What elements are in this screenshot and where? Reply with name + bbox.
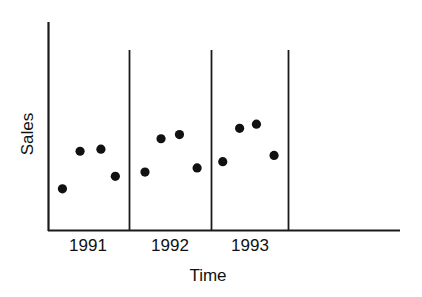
x-tick-label-1992: 1992 [151, 236, 189, 256]
x-tick-label-1993: 1993 [231, 236, 269, 256]
data-point [111, 172, 120, 181]
sales-over-time-scatter-chart: 1991 1992 1993 Time Sales [0, 0, 422, 297]
data-point [140, 168, 149, 177]
data-point [193, 163, 202, 172]
data-points-group [58, 120, 279, 194]
data-point [252, 120, 261, 129]
x-axis-title: Time [189, 266, 226, 286]
data-point [96, 145, 105, 154]
data-point [156, 134, 165, 143]
y-axis-title: Sales [18, 113, 38, 156]
panel-separators [130, 50, 289, 230]
data-point [58, 184, 67, 193]
x-tick-label-1991: 1991 [69, 236, 107, 256]
data-point [269, 151, 278, 160]
plot-area [0, 0, 422, 297]
data-point [175, 130, 184, 139]
data-point [75, 147, 84, 156]
data-point [235, 124, 244, 133]
data-point [218, 157, 227, 166]
